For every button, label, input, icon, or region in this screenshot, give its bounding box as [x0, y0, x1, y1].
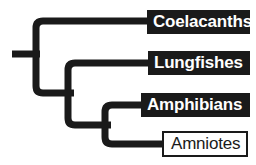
taxon-label-amniotes-text: Amniotes [171, 134, 240, 154]
taxon-label-coelacanths-text: Coelacanths [153, 12, 252, 32]
taxon-label-lungfishes-text: Lungfishes [154, 53, 243, 73]
taxon-label-amniotes[interactable]: Amniotes [162, 131, 248, 157]
taxon-label-coelacanths[interactable]: Coelacanths [147, 10, 250, 34]
branch-node1-to-coelacanths [36, 21, 147, 93]
cladogram-figure: Coelacanths Lungfishes Amphibians Amniot… [0, 0, 256, 165]
taxon-label-lungfishes[interactable]: Lungfishes [148, 51, 250, 75]
taxon-label-amphibians[interactable]: Amphibians [141, 93, 250, 117]
taxon-label-amphibians-text: Amphibians [147, 95, 242, 115]
